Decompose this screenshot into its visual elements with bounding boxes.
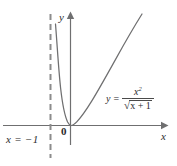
- curve-equation-label: y = x2 √ x + 1: [106, 86, 154, 111]
- y-axis-arrowhead: [67, 12, 74, 20]
- square-root-icon: √ x + 1: [124, 100, 152, 111]
- equation-lhs: y: [106, 93, 110, 104]
- x-axis: [3, 122, 169, 129]
- y-axis-label: y: [59, 12, 64, 23]
- x-axis-arrowhead: [161, 122, 169, 129]
- equation-denominator: √ x + 1: [122, 99, 154, 111]
- equation-fraction: x2 √ x + 1: [122, 86, 154, 111]
- x-axis-label: x: [161, 131, 166, 142]
- graph-figure: y x 0 x = −1 y = x2 √ x + 1: [0, 0, 177, 166]
- equation-numerator: x2: [131, 86, 145, 98]
- origin-label: 0: [61, 126, 67, 137]
- equation-equals-sign: =: [113, 93, 119, 104]
- equation-numerator-exponent: 2: [139, 85, 142, 92]
- equation-radicand: x + 1: [129, 100, 152, 111]
- asymptote-label: x = −1: [6, 134, 39, 145]
